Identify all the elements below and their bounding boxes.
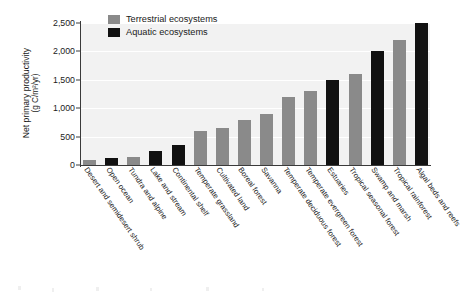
legend-item: Aquatic ecosystems [108,27,217,37]
terrestrial-swatch [108,15,120,24]
scan-artifact [96,287,99,291]
y-axis-tick-labels: 05001,0001,5002,0002,500 [46,0,80,180]
bar [149,151,162,165]
bar [194,131,207,165]
plot-area [81,23,430,165]
bar [349,74,362,165]
y-tick-label: 2,000 [53,46,75,56]
x-tick-label: Savanna [259,166,283,195]
bar [415,23,428,165]
scan-artifact [150,288,152,291]
scan-artifact [52,288,54,292]
legend-label: Terrestrial ecosystems [126,14,217,24]
y-tick-label: 1,000 [53,103,75,113]
bar [172,145,185,165]
bar-series [81,23,430,165]
bar [260,114,273,165]
scan-artifact [18,286,21,290]
bar [282,97,295,165]
x-tick-label: Swamp and marsh [370,166,413,223]
y-tick-label: 1,500 [53,75,75,85]
aquatic-swatch [108,28,120,37]
bar [393,40,406,165]
bar [238,120,251,165]
y-tick-label: 2,500 [53,18,75,28]
y-axis-title-line-1: Net primary productivity [22,48,32,138]
y-tick-label: 500 [60,132,75,142]
bar [326,80,339,165]
bar [127,157,140,165]
legend-item: Terrestrial ecosystems [108,14,217,24]
x-axis-category-labels: Desert and semidesert shrubOpen oceanTun… [0,166,451,298]
scan-artifact [262,288,264,291]
bar [216,128,229,165]
y-axis-title: Net primary productivity (g C/m²/yr) [16,18,46,168]
bar [304,91,317,165]
scan-artifact [206,287,209,291]
bar [371,51,384,165]
chart-legend: Terrestrial ecosystemsAquatic ecosystems [108,14,217,40]
bar [105,158,118,165]
y-axis-title-line-2: (g C/m²/yr) [31,73,40,112]
legend-label: Aquatic ecosystems [126,27,208,37]
